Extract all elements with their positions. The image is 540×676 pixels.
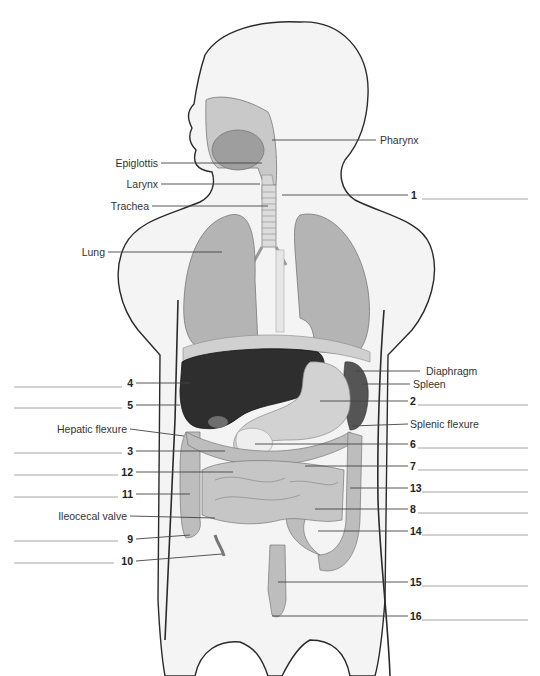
- label-hepatic-flexure: Hepatic flexure: [30, 423, 127, 435]
- blank-number-11: 11: [110, 488, 133, 500]
- label-trachea: Trachea: [90, 200, 149, 212]
- blank-number-10: 10: [110, 555, 133, 567]
- blank-number-4: 4: [110, 377, 133, 389]
- label-pharynx: Pharynx: [380, 134, 419, 146]
- blank-number-12: 12: [110, 466, 133, 478]
- blank-number-2: 2: [410, 395, 416, 407]
- blank-number-15: 15: [410, 576, 422, 588]
- blank-number-3: 3: [110, 445, 133, 457]
- label-lung: Lung: [60, 246, 105, 258]
- blank-number-9: 9: [110, 533, 133, 545]
- blank-number-5: 5: [110, 399, 133, 411]
- blank-number-1: 1: [411, 189, 417, 201]
- label-larynx: Larynx: [100, 178, 158, 190]
- blank-number-16: 16: [410, 610, 422, 622]
- label-spleen: Spleen: [413, 378, 446, 390]
- leader-lines: [0, 0, 540, 676]
- label-splenic-flexure: Splenic flexure: [410, 418, 479, 430]
- blank-number-8: 8: [410, 503, 416, 515]
- blank-number-13: 13: [410, 482, 422, 494]
- label-diaphragm: Diaphragm: [426, 365, 477, 377]
- label-ileocecal-valve: Ileocecal valve: [30, 510, 127, 522]
- label-epiglottis: Epiglottis: [100, 157, 158, 169]
- blank-number-7: 7: [410, 460, 416, 472]
- blank-number-6: 6: [410, 438, 416, 450]
- blank-number-14: 14: [410, 525, 422, 537]
